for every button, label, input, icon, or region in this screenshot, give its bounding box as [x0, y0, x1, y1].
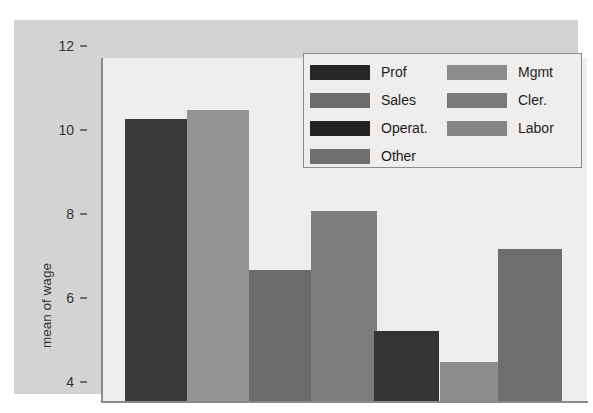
legend-column-right: MgmtCler.Labor	[447, 60, 554, 144]
legend-item: Operat.	[310, 116, 428, 140]
y-tick-mark	[80, 381, 87, 383]
legend-item: Other	[310, 144, 428, 168]
legend-swatch-other	[310, 149, 370, 164]
legend-item: Prof	[310, 60, 428, 84]
legend-label: Other	[381, 149, 416, 163]
bar-operat	[374, 331, 439, 402]
legend-swatch-cler	[447, 93, 507, 108]
bar-prof	[125, 119, 187, 403]
x-axis-line	[101, 401, 588, 403]
y-tick-mark	[80, 297, 87, 299]
legend-label: Labor	[518, 121, 554, 135]
y-axis-label: mean of wage	[39, 246, 54, 366]
legend: ProfSalesOperat.Other MgmtCler.Labor	[303, 53, 582, 168]
y-axis-line	[101, 58, 103, 403]
y-tick-label: 12	[38, 39, 74, 53]
legend-swatch-mgmt	[447, 65, 507, 80]
legend-column-left: ProfSalesOperat.Other	[310, 60, 428, 172]
y-axis-label-host: mean of wage	[26, 130, 66, 250]
legend-item: Mgmt	[447, 60, 554, 84]
legend-swatch-prof	[310, 65, 370, 80]
legend-label: Cler.	[518, 93, 547, 107]
legend-label: Prof	[381, 65, 407, 79]
legend-label: Operat.	[381, 121, 428, 135]
bar-cler	[311, 211, 377, 402]
bar-other	[440, 362, 498, 402]
legend-swatch-labor	[447, 121, 507, 136]
legend-label: Sales	[381, 93, 416, 107]
bar-mgmt	[187, 110, 249, 402]
legend-swatch-sales	[310, 93, 370, 108]
figure-canvas: ProfSalesOperat.Other MgmtCler.Labor	[14, 20, 578, 394]
chart-screenshot: ProfSalesOperat.Other MgmtCler.Labor mea…	[0, 0, 593, 413]
legend-item: Sales	[310, 88, 428, 112]
y-tick-label: 10	[38, 123, 74, 137]
legend-label: Mgmt	[518, 65, 553, 79]
y-tick-label: 4	[38, 375, 74, 389]
y-tick-mark	[80, 45, 87, 47]
legend-item: Cler.	[447, 88, 554, 112]
y-tick-label: 8	[38, 207, 74, 221]
bar-sales	[249, 270, 311, 402]
y-tick-label: 6	[38, 291, 74, 305]
legend-item: Labor	[447, 116, 554, 140]
bar-labor	[498, 249, 562, 402]
y-tick-mark	[80, 213, 87, 215]
legend-swatch-operat	[310, 121, 370, 136]
y-tick-mark	[80, 129, 87, 131]
